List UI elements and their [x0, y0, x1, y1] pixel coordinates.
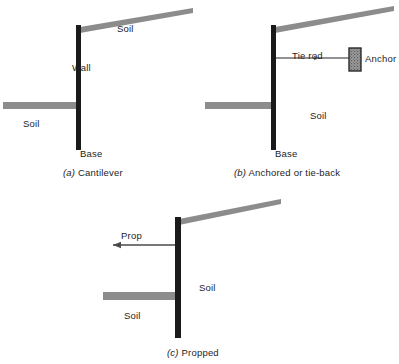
panel-c-label-soil-left: Soil — [124, 311, 141, 321]
panel-b-caption-enum: (b) — [234, 167, 246, 178]
panel-a-label-soil-top: Soil — [117, 24, 134, 34]
panel-b-anchor-block — [349, 48, 361, 71]
panel-b-label-tie-rod: Tie rod — [292, 51, 323, 61]
panel-b-wall — [271, 25, 276, 150]
panel-c-label-soil-right: Soil — [199, 283, 216, 293]
panel-b-label-anchor: Anchor — [365, 54, 396, 64]
panel-c-caption-enum: (c) — [167, 347, 179, 358]
panel-b-label-base: Base — [275, 149, 297, 159]
panel-b-soil-band-left — [205, 102, 273, 109]
panel-a-caption: (a) Cantilever — [63, 168, 123, 178]
panel-b-label-soil-right: Soil — [310, 111, 327, 121]
panel-a-label-soil-left: Soil — [23, 119, 40, 129]
panel-a-soil-slope — [80, 8, 193, 33]
panel-c-soil-slope — [179, 199, 281, 225]
retaining-wall-figure: Soil Wall Soil Base (a) Cantilever Tie r… — [0, 0, 399, 364]
panel-a-soil-band-left — [3, 102, 81, 109]
panel-b-caption: (b) Anchored or tie-back — [234, 168, 340, 178]
panel-a-caption-enum: (a) — [63, 167, 75, 178]
panel-c-soil-band-left — [103, 292, 177, 300]
panel-c-label-prop: Prop — [121, 231, 142, 241]
panel-c-caption-text: Propped — [182, 347, 219, 358]
panel-c-wall — [175, 217, 181, 338]
panel-a-label-wall: Wall — [72, 63, 91, 73]
diagram-canvas — [0, 0, 399, 364]
panel-a-wall — [76, 25, 81, 150]
panel-a-caption-text: Cantilever — [78, 167, 123, 178]
panel-b-soil-slope — [275, 6, 394, 33]
panel-b-graphics — [205, 6, 394, 150]
panel-b-caption-text: Anchored or tie-back — [249, 167, 341, 178]
panel-a-label-base: Base — [80, 149, 102, 159]
panel-c-caption: (c) Propped — [167, 348, 219, 358]
